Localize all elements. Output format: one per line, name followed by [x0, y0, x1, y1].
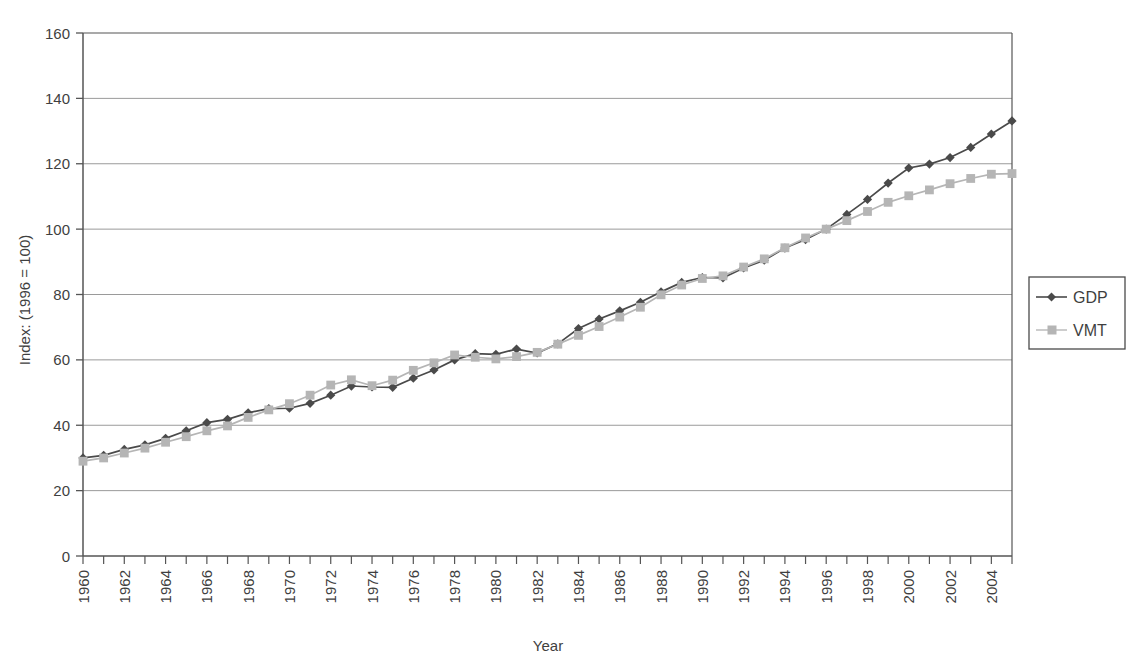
- x-tick-label: 1978: [446, 570, 463, 603]
- y-tick-label: 120: [45, 155, 70, 172]
- data-point-vmt: [471, 353, 480, 362]
- data-point-vmt: [161, 438, 170, 447]
- y-axis-ticks: [76, 33, 83, 556]
- x-tick-label: 1964: [157, 570, 174, 603]
- y-tick-label: 80: [53, 286, 70, 303]
- x-tick-label: 1992: [735, 570, 752, 603]
- data-point-vmt: [533, 348, 542, 357]
- y-tick-label: 160: [45, 25, 70, 42]
- data-point-vmt: [388, 376, 397, 385]
- data-point-vmt: [801, 234, 810, 243]
- data-point-vmt: [842, 216, 851, 225]
- x-tick-label: 2002: [942, 570, 959, 603]
- x-axis-tick-labels: 1960196219641966196819701972197419761978…: [75, 570, 1000, 603]
- data-point-vmt: [987, 170, 996, 179]
- x-tick-label: 2000: [900, 570, 917, 603]
- x-tick-label: 1998: [859, 570, 876, 603]
- data-point-vmt: [512, 352, 521, 361]
- data-point-gdp: [202, 418, 211, 427]
- x-tick-label: 1960: [75, 570, 92, 603]
- data-point-vmt: [306, 391, 315, 400]
- x-tick-label: 1984: [570, 570, 587, 603]
- x-tick-label: 1980: [487, 570, 504, 603]
- data-point-gdp: [1007, 116, 1016, 125]
- x-tick-label: 1972: [322, 570, 339, 603]
- x-tick-label: 1990: [694, 570, 711, 603]
- data-point-vmt: [884, 198, 893, 207]
- data-point-vmt: [244, 413, 253, 422]
- data-point-vmt: [553, 340, 562, 349]
- data-point-vmt: [79, 457, 88, 466]
- y-axis-tick-labels: 020406080100120140160: [45, 25, 70, 565]
- gridlines-group: [83, 98, 1012, 490]
- data-point-gdp: [409, 374, 418, 383]
- data-point-vmt: [863, 207, 872, 216]
- data-point-vmt: [450, 351, 459, 360]
- y-axis-title: Index: (1996 = 100): [16, 235, 33, 366]
- data-point-vmt: [1008, 169, 1017, 178]
- line-chart-svg: 020406080100120140160 196019621964196619…: [0, 0, 1131, 662]
- data-point-vmt: [430, 358, 439, 367]
- y-tick-label: 40: [53, 417, 70, 434]
- x-tick-label: 1974: [364, 570, 381, 603]
- x-axis-title: Year: [533, 637, 563, 654]
- data-point-gdp: [326, 391, 335, 400]
- x-tick-label: 1986: [611, 570, 628, 603]
- legend-marker-square-icon: [1048, 326, 1057, 335]
- x-axis-ticks: [83, 556, 1012, 564]
- data-point-vmt: [347, 375, 356, 384]
- series-markers-group: [78, 116, 1016, 465]
- x-tick-label: 1962: [116, 570, 133, 603]
- data-point-vmt: [368, 381, 377, 390]
- data-point-vmt: [223, 422, 232, 431]
- data-point-vmt: [636, 303, 645, 312]
- legend-label-vmt: VMT: [1073, 322, 1107, 339]
- data-point-vmt: [202, 426, 211, 435]
- data-point-vmt: [925, 186, 934, 195]
- data-point-vmt: [946, 179, 955, 188]
- series-line-gdp: [83, 121, 1012, 458]
- y-tick-label: 20: [53, 482, 70, 499]
- data-point-vmt: [141, 444, 150, 453]
- data-point-vmt: [182, 432, 191, 441]
- chart-figure: 020406080100120140160 196019621964196619…: [0, 0, 1131, 662]
- data-point-vmt: [615, 313, 624, 322]
- data-point-vmt: [739, 263, 748, 272]
- data-point-vmt: [264, 405, 273, 414]
- data-point-vmt: [491, 354, 500, 363]
- data-point-vmt: [698, 274, 707, 283]
- data-point-vmt: [966, 174, 975, 183]
- data-point-vmt: [99, 454, 108, 463]
- y-tick-label: 0: [62, 548, 70, 565]
- data-point-vmt: [781, 243, 790, 252]
- x-tick-label: 1988: [653, 570, 670, 603]
- data-point-vmt: [595, 322, 604, 331]
- data-point-vmt: [120, 449, 129, 458]
- y-tick-label: 140: [45, 90, 70, 107]
- data-point-gdp: [305, 399, 314, 408]
- legend-label-gdp: GDP: [1073, 289, 1108, 306]
- data-point-vmt: [657, 290, 666, 299]
- x-tick-label: 1976: [405, 570, 422, 603]
- x-tick-label: 1994: [776, 570, 793, 603]
- y-tick-label: 100: [45, 221, 70, 238]
- data-point-vmt: [677, 281, 686, 290]
- data-point-gdp: [925, 159, 934, 168]
- data-point-vmt: [409, 366, 418, 375]
- data-point-vmt: [574, 331, 583, 340]
- x-tick-label: 1966: [198, 570, 215, 603]
- data-point-vmt: [285, 399, 294, 408]
- data-point-vmt: [326, 381, 335, 390]
- data-point-vmt: [760, 254, 769, 263]
- legend: GDP VMT: [1029, 277, 1125, 349]
- data-point-vmt: [822, 225, 831, 234]
- data-point-vmt: [719, 271, 728, 280]
- data-point-gdp: [966, 143, 975, 152]
- data-point-vmt: [904, 191, 913, 200]
- y-tick-label: 60: [53, 351, 70, 368]
- x-tick-label: 1996: [818, 570, 835, 603]
- series-lines-group: [83, 121, 1012, 461]
- series-line-vmt: [83, 174, 1012, 462]
- x-tick-label: 1968: [240, 570, 257, 603]
- x-tick-label: 1970: [281, 570, 298, 603]
